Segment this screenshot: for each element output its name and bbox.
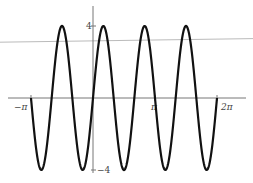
sine-chart: −ππ2π 4−4 (0, 0, 253, 183)
reference-line (0, 39, 253, 43)
x-tick-label: 2π (220, 102, 234, 112)
x-tick-label: −π (14, 102, 29, 112)
y-tick-label: −4 (97, 165, 111, 175)
y-tick-label: 4 (86, 21, 92, 31)
